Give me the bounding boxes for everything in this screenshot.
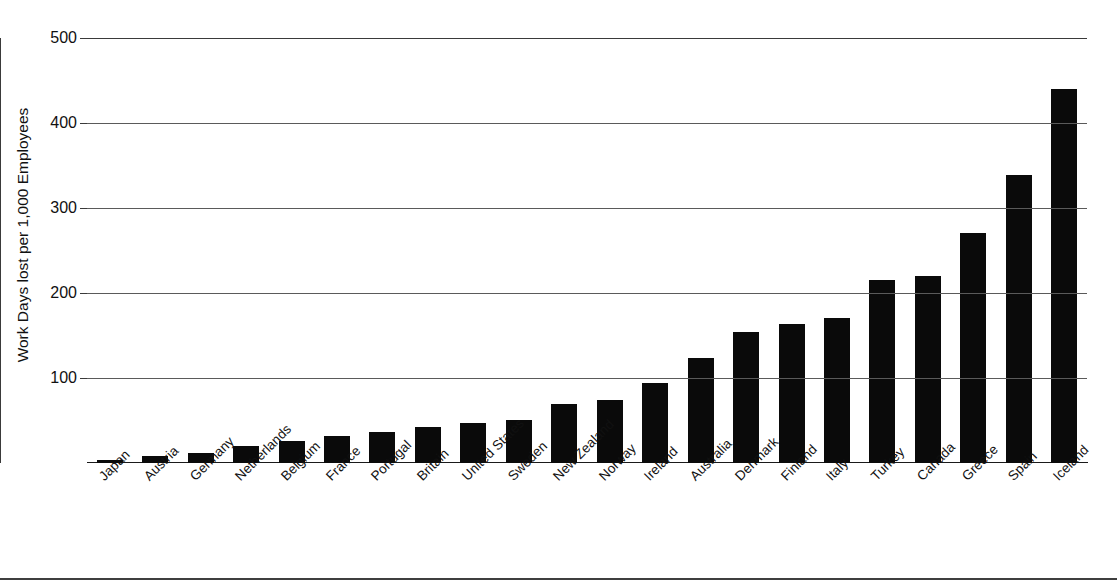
gridline-300	[87, 208, 1087, 209]
y-tick-label: 300	[31, 199, 77, 217]
bar	[1051, 89, 1077, 463]
y-tick-mark-400	[80, 123, 87, 124]
y-tick-mark-100	[80, 378, 87, 379]
bar	[688, 358, 714, 463]
bar	[1006, 175, 1032, 463]
bar	[915, 276, 941, 463]
y-tick-mark-300	[80, 208, 87, 209]
y-tick-mark-500	[80, 38, 87, 39]
y-tick-label: 100	[31, 369, 77, 387]
gridline-400	[87, 123, 1087, 124]
bottom-rule	[0, 578, 1117, 580]
y-tick-label: 500	[31, 29, 77, 47]
bar	[733, 332, 759, 463]
bar	[960, 233, 986, 463]
y-axis-title-wrap: Work Days lost per 1,000 Employees	[6, 0, 40, 470]
bar-chart-figure: Work Days lost per 1,000 Employees 10020…	[0, 0, 1117, 586]
y-axis-line	[0, 38, 1, 463]
y-tick-label: 400	[31, 114, 77, 132]
y-tick-mark-200	[80, 293, 87, 294]
y-tick-label: 200	[31, 284, 77, 302]
gridline-500	[87, 38, 1087, 39]
bar	[824, 318, 850, 463]
plot-area	[87, 38, 1087, 463]
bars-layer	[87, 38, 1087, 463]
y-axis-title: Work Days lost per 1,000 Employees	[14, 108, 32, 363]
bar	[779, 324, 805, 463]
category-label-layer: JapanAustriaGermanyNetherlandsBelgiumFra…	[87, 463, 1087, 573]
gridline-100	[87, 378, 1087, 379]
gridline-200	[87, 293, 1087, 294]
bar	[869, 280, 895, 463]
